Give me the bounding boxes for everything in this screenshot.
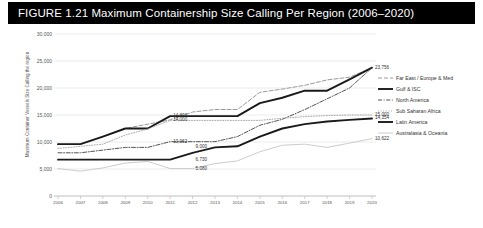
y-tick-label: 20,000 [24, 85, 52, 91]
legend-item[interactable]: Far East / Europe & Med [378, 72, 482, 83]
legend-item[interactable]: North America [378, 94, 482, 105]
x-tick-label: 2017 [295, 200, 315, 205]
x-tick-label: 2019 [340, 200, 360, 205]
legend-label: Latin America [396, 119, 427, 125]
series-line [58, 68, 372, 144]
x-tick-label: 2018 [317, 200, 337, 205]
legend-label: Far East / Europe & Med [396, 75, 453, 81]
x-tick-label: 2010 [138, 200, 158, 205]
figure-title-bar: FIGURE 1.21 Maximum Containership Size C… [8, 2, 475, 24]
data-label: 14,000 [173, 117, 187, 122]
x-tick-label: 2013 [205, 200, 225, 205]
y-tick-label: 5,000 [24, 166, 52, 172]
legend-label: Australasia & Oceania [396, 130, 447, 136]
series-line [58, 115, 372, 148]
legend-label: Sub Saharan Africa [396, 108, 441, 114]
legend-line-icon [378, 85, 393, 93]
data-label: 5,080 [196, 166, 208, 171]
legend-item[interactable]: Latin America [378, 116, 482, 127]
legend-item[interactable]: Australasia & Oceania [378, 127, 482, 138]
legend-item[interactable]: Sub Saharan Africa [378, 105, 482, 116]
x-tick-label: 2020 [362, 200, 382, 205]
legend-line-icon [378, 118, 393, 126]
data-label: 23,756 [375, 65, 389, 70]
x-tick-label: 2012 [183, 200, 203, 205]
chart-legend: Far East / Europe & MedGulf & ISCNorth A… [378, 72, 482, 138]
gridlines [54, 34, 376, 196]
data-label: 6,730 [196, 157, 208, 162]
legend-item[interactable]: Gulf & ISC [378, 83, 482, 94]
legend-line-icon [378, 129, 393, 137]
x-tick-label: 2009 [115, 200, 135, 205]
data-label: 9,000 [196, 144, 208, 149]
y-tick-label: 0 [24, 193, 52, 199]
legend-label: North America [396, 97, 429, 103]
legend-line-icon [378, 74, 393, 82]
legend-line-icon [378, 96, 393, 104]
y-tick-label: 25,000 [24, 58, 52, 64]
series-lines [58, 68, 372, 171]
y-tick-label: 15,000 [24, 112, 52, 118]
x-tick-label: 2014 [227, 200, 247, 205]
series-line [58, 68, 372, 144]
x-tick-label: 2007 [70, 200, 90, 205]
y-tick-label: 30,000 [24, 31, 52, 37]
x-tick-label: 2015 [250, 200, 270, 205]
x-tick-label: 2006 [48, 200, 68, 205]
series-line [58, 118, 372, 159]
x-tick-marks [58, 196, 372, 199]
y-tick-label: 10,000 [24, 139, 52, 145]
x-tick-label: 2008 [93, 200, 113, 205]
x-tick-label: 2011 [160, 200, 180, 205]
data-label: 10,062 [173, 139, 187, 144]
legend-line-icon [378, 107, 393, 115]
chart-area: Maximum Container Vessels Size Calling t… [0, 24, 483, 228]
figure-container: FIGURE 1.21 Maximum Containership Size C… [0, 0, 483, 228]
x-tick-label: 2016 [272, 200, 292, 205]
legend-label: Gulf & ISC [396, 86, 421, 92]
figure-title: FIGURE 1.21 Maximum Containership Size C… [8, 7, 414, 19]
